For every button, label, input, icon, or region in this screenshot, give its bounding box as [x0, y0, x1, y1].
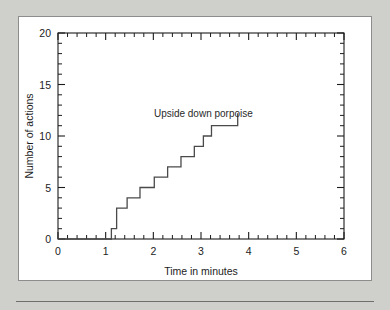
step-chart: 0123456 05101520 Upside down porpoise Ti… [19, 17, 371, 280]
x-tick-label: 4 [246, 245, 252, 257]
y-axis-minor-ticks [58, 43, 344, 228]
y-axis-major-ticks [58, 33, 344, 239]
y-axis-tick-labels: 05101520 [39, 27, 51, 245]
x-tick-label: 3 [198, 245, 204, 257]
x-tick-label: 1 [103, 245, 109, 257]
x-axis-tick-labels: 0123456 [55, 245, 347, 257]
y-tick-label: 0 [45, 233, 51, 245]
x-tick-label: 2 [150, 245, 156, 257]
y-tick-label: 20 [39, 27, 51, 39]
annotation-group: Upside down porpoise [154, 108, 253, 119]
series-annotation-label: Upside down porpoise [154, 108, 253, 119]
y-tick-label: 5 [45, 182, 51, 194]
x-tick-label: 5 [293, 245, 299, 257]
page-root: 0123456 05101520 Upside down porpoise Ti… [0, 0, 390, 310]
x-tick-label: 6 [341, 245, 347, 257]
y-tick-label: 10 [39, 130, 51, 142]
bottom-divider [16, 301, 374, 302]
series-group [58, 113, 238, 239]
y-tick-label: 15 [39, 79, 51, 91]
figure-card: 0123456 05101520 Upside down porpoise Ti… [18, 16, 372, 281]
x-axis-minor-ticks [68, 33, 335, 239]
plot-frame [58, 33, 344, 239]
y-axis-title: Number of actions [23, 93, 35, 178]
x-axis-title: Time in minutes [164, 265, 238, 277]
data-series-line [58, 113, 238, 239]
x-tick-label: 0 [55, 245, 61, 257]
x-axis-major-ticks [58, 33, 344, 239]
